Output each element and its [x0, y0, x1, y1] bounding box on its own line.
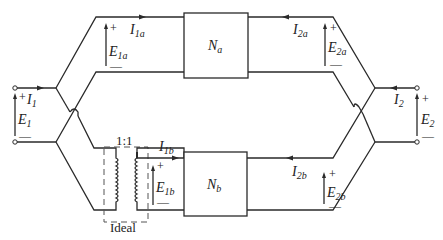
svg-text:—: —: [421, 129, 435, 143]
e1a-arrow-icon: [104, 23, 108, 29]
i1b-label: I1b: [158, 139, 174, 156]
network-nb: Nb: [184, 152, 247, 216]
e2a-arrow-icon: [323, 23, 327, 29]
network-na: Na: [184, 13, 248, 78]
svg-text:+: +: [157, 159, 164, 173]
i1-arrow-icon: [37, 86, 44, 91]
port2-labels: I2 + E2 —: [393, 92, 435, 143]
e1-label: E1: [17, 112, 32, 129]
svg-text:+: +: [19, 90, 26, 104]
i2a-label: I2a: [292, 22, 308, 39]
e2b-arrow-icon: [322, 172, 326, 178]
circuit-diagram: 1:1 Ideal Na Nb I1a + E1a — I2a + E2a — …: [0, 0, 443, 240]
i2b-arrow-icon: [286, 156, 293, 161]
port2-bottom-terminal: [415, 140, 419, 144]
primary-coil-icon: [116, 152, 118, 206]
left-wiring: [56, 17, 184, 210]
i2-arrow-icon: [390, 86, 397, 91]
svg-text:+: +: [422, 92, 429, 106]
e1b-arrow-icon: [151, 165, 155, 171]
i2-label: I2: [393, 92, 404, 109]
svg-text:—: —: [18, 129, 32, 143]
i1a-label: I1a: [129, 22, 145, 39]
secondary-coil-icon: [135, 152, 137, 206]
transformer-caption: Ideal: [110, 220, 136, 235]
svg-text:—: —: [156, 195, 170, 209]
i1-label: I1: [26, 92, 37, 109]
i2a-arrow-icon: [282, 15, 289, 20]
i1b-arrow-icon: [172, 156, 179, 161]
e2-arrow-icon: [415, 93, 419, 99]
right-wiring: [247, 17, 375, 210]
port2-top-terminal: [415, 86, 419, 90]
branch-b-annotations: I1b + E1b — I2b + E2b —: [151, 139, 346, 213]
e2-label: E2: [420, 112, 435, 129]
i2b-label: I2b: [291, 164, 307, 181]
svg-text:—: —: [329, 57, 343, 71]
svg-text:—: —: [109, 59, 123, 73]
port1-bottom-terminal: [13, 140, 17, 144]
transformer-ratio: 1:1: [116, 133, 133, 148]
svg-text:+: +: [329, 167, 336, 181]
port1-top-terminal: [13, 86, 17, 90]
port1-labels: I1 + E1 —: [17, 90, 37, 143]
e2a-label: E2a: [327, 40, 347, 57]
svg-text:—: —: [328, 199, 342, 213]
i1a-arrow-icon: [139, 15, 146, 20]
svg-text:+: +: [110, 21, 117, 35]
svg-text:+: +: [330, 21, 337, 35]
e1-arrow-icon: [13, 93, 17, 99]
